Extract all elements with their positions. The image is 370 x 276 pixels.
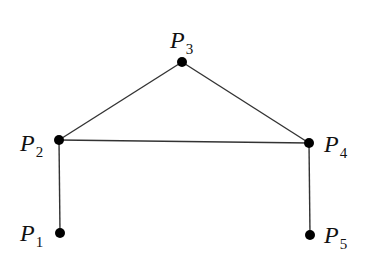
edge-p2-p4 [59,140,309,143]
edges-group [59,62,310,235]
node-label-p3: P3 [169,27,193,57]
graph-diagram: P1P2P3P4P5 [0,0,370,276]
node-label-p1: P1 [19,220,43,250]
edge-p4-p5 [309,143,310,235]
node-p3 [177,57,187,67]
node-p4 [304,138,314,148]
edge-p1-p2 [59,140,60,233]
node-p2 [54,135,64,145]
node-label-p2: P2 [19,130,43,160]
nodes-group [54,57,315,240]
node-p5 [305,230,315,240]
node-label-p5: P5 [323,222,347,252]
node-label-p4: P4 [323,131,348,161]
edge-p3-p4 [182,62,309,143]
edge-p2-p3 [59,62,182,140]
node-p1 [55,228,65,238]
